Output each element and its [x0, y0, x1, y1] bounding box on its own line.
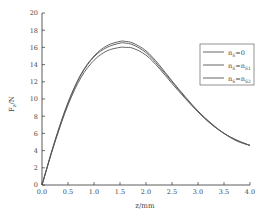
y-tick-label: 0: [34, 181, 38, 189]
x-tick-label: 1.5: [115, 188, 125, 196]
y-tick-label: 16: [30, 44, 38, 52]
y-tick-label: 18: [30, 27, 38, 35]
y-tick-label: 12: [30, 78, 38, 86]
y-tick-label: 2: [34, 164, 38, 172]
x-tick-label: 3.0: [193, 188, 203, 196]
y-tick-label: 6: [34, 130, 38, 138]
y-tick-label: 8: [34, 113, 38, 121]
chart: 0.00.51.01.52.02.53.03.54.00246810121416…: [0, 0, 270, 219]
x-axis-label: z/mm: [135, 202, 155, 210]
legend-item-0: nS=0: [228, 49, 245, 58]
axes: 0.00.51.01.52.02.53.03.54.00246810121416…: [30, 9, 255, 196]
y-label-unit: /N: [8, 96, 16, 104]
y-tick-label: 20: [30, 9, 38, 17]
y-tick-label: 10: [30, 95, 38, 103]
x-tick-label: 1.0: [89, 188, 99, 196]
x-tick-label: 2.0: [141, 188, 151, 196]
y-tick-label: 4: [34, 147, 38, 155]
x-tick-label: 2.5: [167, 188, 177, 196]
x-tick-label: 0.5: [63, 188, 73, 196]
x-tick-label: 0.0: [37, 188, 47, 196]
y-tick-label: 14: [30, 61, 38, 69]
y-axis-label: Fz/N: [8, 96, 17, 112]
x-tick-label: 4.0: [245, 188, 255, 196]
x-tick-label: 3.5: [219, 188, 229, 196]
legend: nS=0nS=nS1nS=nS2: [200, 44, 254, 85]
